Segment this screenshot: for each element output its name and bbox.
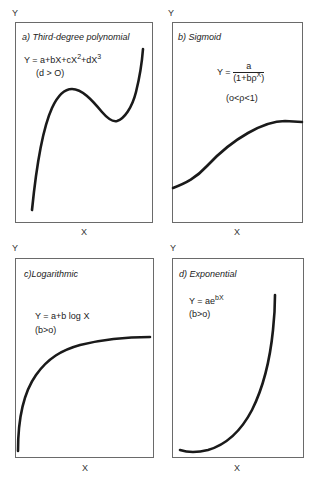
panel-c-x-axis-label: X (82, 463, 88, 473)
panel-b-x-axis-label: X (234, 227, 240, 237)
panel-a-eq-exp2: 3 (97, 53, 101, 60)
panel-b-sigmoid: b) Sigmoid Y = a (1+bρX) (o<ρ<1) (172, 22, 303, 223)
panel-a-title: a) Third-degree polynomial (22, 32, 130, 42)
panel-d-y-axis-label: Y (170, 243, 176, 253)
panel-b-eq-den-close: ) (261, 73, 264, 83)
panel-d-title: d) Exponential (179, 269, 237, 279)
panel-d-eq-exp: bX (215, 294, 224, 301)
panel-a-condition: (d > O) (36, 68, 64, 78)
panel-d-x-axis-label: X (234, 463, 240, 473)
panel-b-eq-lhs: Y = (217, 67, 231, 77)
panel-b-title: b) Sigmoid (178, 32, 221, 42)
panel-a-third-degree-polynomial: a) Third-degree polynomial Y = a+bX+cX2+… (15, 22, 153, 223)
panel-c-logarithmic: c)Logarithmic Y = a+b log X (b>o) (15, 258, 154, 458)
panel-a-equation: Y = a+bX+cX2+dX3 (24, 55, 101, 66)
panel-b-condition: (o<ρ<1) (226, 93, 258, 103)
panel-b-fraction: a (1+bρX) (233, 61, 264, 84)
panel-b-y-axis-label: Y (168, 8, 174, 18)
panel-d-equation: Y = aebX (189, 296, 224, 307)
panel-d-condition: (b>o) (189, 309, 210, 319)
panel-d-eq-base: Y = ae (189, 296, 215, 306)
panel-a-x-axis-label: X (81, 227, 87, 237)
panel-a-eq-main: Y = a+bX+cX (24, 55, 77, 65)
panel-b-eq-denominator: (1+bρX) (233, 73, 264, 84)
panel-a-eq-mid: +dX (81, 55, 97, 65)
panel-c-title: c)Logarithmic (24, 269, 78, 279)
panel-b-equation: Y = a (1+bρX) (217, 61, 264, 84)
panel-c-equation: Y = a+b log X (35, 311, 89, 322)
panel-c-condition: (b>o) (35, 325, 56, 335)
panel-d-exponential: d) Exponential Y = aebX (b>o) (172, 258, 304, 458)
panel-c-y-axis-label: Y (12, 243, 18, 253)
panel-a-y-axis-label: Y (12, 8, 18, 18)
panel-b-eq-den-base: (1+bρ (233, 73, 256, 83)
